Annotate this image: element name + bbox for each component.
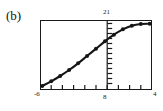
data-point [85, 54, 89, 58]
x-origin-label: 8 [103, 94, 107, 101]
y-axis-ticks [107, 24, 112, 84]
data-point [40, 84, 44, 88]
data-point [94, 47, 98, 51]
data-point [139, 22, 143, 26]
data-point [103, 39, 107, 43]
data-point [130, 24, 134, 28]
data-point [121, 27, 125, 31]
data-point [148, 22, 152, 26]
data-point [49, 79, 53, 83]
y-max-label: 21 [103, 9, 110, 16]
x-axis-ticks [51, 85, 141, 90]
data-point [112, 33, 116, 37]
panel-label: (b) [6, 9, 21, 22]
data-point [67, 68, 71, 72]
figure-panel: (b) [0, 0, 163, 111]
plot-area [40, 20, 152, 90]
data-point [58, 74, 62, 78]
x-min-label: -6 [34, 91, 40, 98]
x-max-label: 4 [153, 91, 157, 98]
data-point [76, 61, 80, 65]
